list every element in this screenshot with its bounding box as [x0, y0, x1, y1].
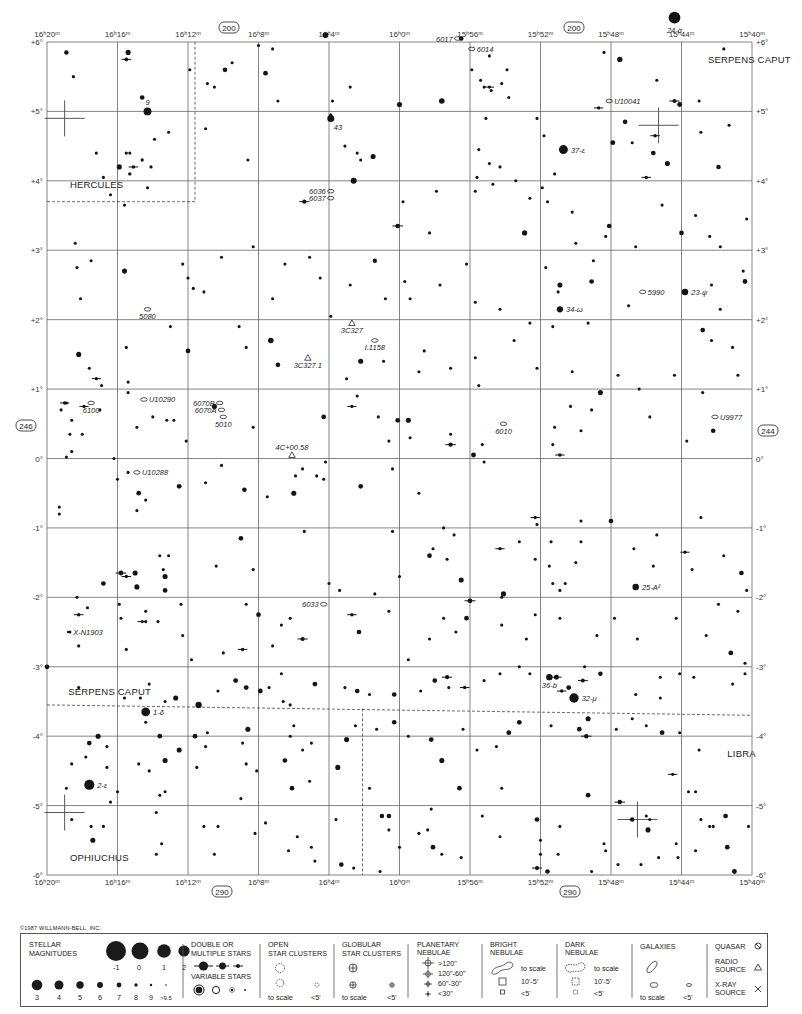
- dso-label: 6070A: [195, 406, 217, 415]
- dec-tick-label-right: -3°: [756, 663, 766, 672]
- page-ref-left: 246: [19, 422, 33, 431]
- star: [598, 390, 603, 395]
- double-star: [671, 773, 674, 776]
- dso-label: 3C327.1: [294, 361, 322, 370]
- star: [216, 825, 219, 828]
- magnitude-swatch-9: [150, 984, 152, 986]
- dec-tick-label-right: 0°: [756, 455, 764, 464]
- star: [659, 676, 662, 679]
- double-star: [124, 58, 128, 62]
- open-cluster-swatch-scale: [276, 979, 284, 987]
- star: [631, 141, 634, 144]
- legend-sources: QUASAR RADIO SOURCE X-RAY SOURCE: [715, 942, 762, 997]
- star: [699, 131, 702, 134]
- legend-planetary-size-3: 60"-30": [438, 979, 462, 988]
- star: [233, 678, 238, 683]
- dark-nebula-swatch-mid: [572, 978, 579, 985]
- star: [87, 741, 92, 746]
- constellation-boundary: [47, 42, 195, 202]
- reference-crosses: [45, 100, 679, 837]
- star: [357, 630, 362, 635]
- legend-planetary-nebulae: PLANETARY NEBULAE >120" 120"-60" 60"-30"…: [417, 940, 466, 998]
- star: [387, 610, 390, 613]
- star: [88, 367, 91, 370]
- star: [514, 179, 517, 182]
- star: [574, 561, 577, 564]
- star: [354, 724, 357, 727]
- star: [739, 571, 744, 576]
- star: [271, 47, 274, 50]
- star: [717, 603, 720, 606]
- galaxy-swatch-scale: [650, 983, 658, 988]
- double-star: [132, 165, 136, 169]
- star: [579, 519, 582, 522]
- star: [464, 616, 469, 621]
- star: [648, 415, 651, 418]
- star: [206, 82, 209, 85]
- star: [256, 612, 261, 617]
- double-star: [560, 689, 564, 693]
- bright-nebula-swatch-scale: [492, 962, 513, 974]
- magnitude-label-6: 6: [98, 993, 102, 1002]
- star: [242, 487, 247, 492]
- star: [117, 164, 122, 169]
- star: [461, 728, 464, 731]
- star: [687, 790, 690, 793]
- dec-tick-label-left: +5°: [31, 107, 43, 116]
- star: [406, 418, 411, 423]
- star: [81, 433, 84, 436]
- ra-tick-label-top: 16ʰ8ᵐ: [248, 30, 269, 39]
- star: [322, 478, 325, 481]
- star: [135, 509, 138, 512]
- star: [395, 418, 400, 423]
- star: [258, 689, 263, 694]
- star: [409, 436, 412, 439]
- star: [264, 821, 267, 824]
- double-star-swatch-large: [199, 961, 208, 970]
- star-label: 32-μ: [582, 694, 597, 703]
- star: [190, 658, 193, 661]
- star: [391, 530, 394, 533]
- star: [266, 495, 269, 498]
- star: [417, 370, 420, 373]
- star: [220, 464, 223, 467]
- star: [268, 686, 271, 689]
- star: [500, 624, 503, 627]
- star: [725, 845, 730, 850]
- star: [545, 869, 550, 874]
- star: [355, 689, 360, 694]
- legend-open-title-1: OPEN: [268, 940, 288, 949]
- star: [282, 700, 285, 703]
- star: [163, 758, 168, 763]
- star: [742, 270, 745, 273]
- legend-bright-title-2: NEBULAE: [490, 948, 524, 957]
- star: [470, 68, 473, 71]
- star: [58, 512, 61, 515]
- magnitude-label-3: 3: [35, 993, 39, 1002]
- star: [163, 588, 168, 593]
- xray-source-marker: [67, 631, 70, 634]
- star: [732, 869, 737, 874]
- star: [391, 467, 394, 470]
- star: [698, 99, 701, 102]
- magnitude-swatch-6: [97, 982, 103, 988]
- star: [483, 679, 486, 682]
- star: [123, 696, 126, 699]
- legend-double-title-1: DOUBLE OR: [191, 940, 233, 949]
- star: [140, 95, 145, 100]
- star: [577, 727, 582, 732]
- star: [651, 151, 656, 156]
- star: [144, 499, 147, 502]
- star: [223, 67, 228, 72]
- double-star: [125, 575, 129, 579]
- star: [167, 131, 170, 134]
- star: [116, 790, 119, 793]
- star: [557, 290, 560, 293]
- star: [474, 301, 477, 304]
- star: [149, 165, 152, 168]
- star: [488, 54, 491, 57]
- star: [74, 242, 77, 245]
- star: [213, 853, 216, 856]
- star: [343, 145, 346, 148]
- star: [592, 259, 595, 262]
